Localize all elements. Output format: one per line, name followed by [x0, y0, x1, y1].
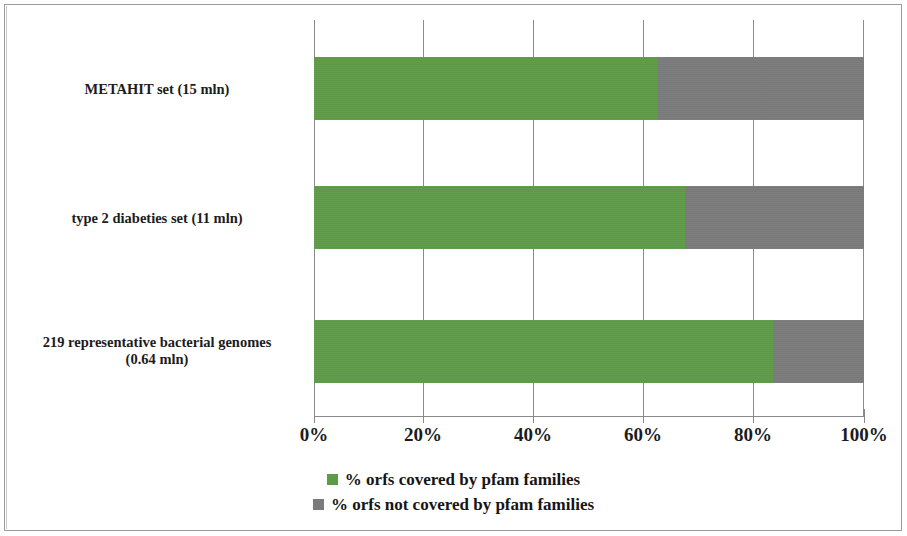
category-label-type2: type 2 diabeties set (11 mln) [7, 210, 307, 227]
category-label-genomes: 219 representative bacterial genomes (0.… [7, 334, 307, 368]
category-label-line: type 2 diabeties set (11 mln) [7, 210, 307, 227]
green-square-icon [327, 474, 338, 485]
x-axis-tick-20 [423, 409, 424, 423]
legend-item-covered: % orfs covered by pfam families [0, 470, 907, 489]
bar-segment-uncovered [685, 186, 864, 249]
chart-figure: METAHIT set (15 mln) type 2 diabeties se… [0, 0, 907, 536]
x-axis-line [314, 416, 865, 417]
x-tick-label-100: 100% [824, 424, 904, 446]
x-tick-label-0: 0% [274, 424, 354, 446]
bar-segment-covered [314, 186, 685, 249]
category-label-line: METAHIT set (15 mln) [7, 81, 307, 98]
x-axis-tick-0 [314, 409, 315, 423]
legend-label: % orfs not covered by pfam families [331, 495, 594, 514]
legend-label: % orfs covered by pfam families [345, 470, 580, 489]
bar-segment-uncovered [658, 57, 864, 120]
bar-segment-covered [314, 57, 658, 120]
bar-row [314, 186, 864, 249]
x-axis-tick-40 [533, 409, 534, 423]
chart-legend: % orfs covered by pfam families % orfs n… [0, 470, 907, 520]
category-label-metahit: METAHIT set (15 mln) [7, 81, 307, 98]
x-axis-tick-100 [864, 409, 865, 423]
bar-segment-uncovered [773, 320, 864, 383]
x-tick-label-20: 20% [383, 424, 463, 446]
legend-item-uncovered: % orfs not covered by pfam families [0, 495, 907, 514]
x-tick-label-60: 60% [603, 424, 683, 446]
category-label-line: (0.64 mln) [7, 351, 307, 368]
x-axis-tick-80 [753, 409, 754, 423]
bar-segment-covered [314, 320, 773, 383]
x-tick-label-40: 40% [493, 424, 573, 446]
x-tick-label-80: 80% [713, 424, 793, 446]
bar-row [314, 57, 864, 120]
category-label-line: 219 representative bacterial genomes [7, 334, 307, 351]
x-axis-tick-60 [643, 409, 644, 423]
gray-square-icon [313, 499, 324, 510]
bar-row [314, 320, 864, 383]
